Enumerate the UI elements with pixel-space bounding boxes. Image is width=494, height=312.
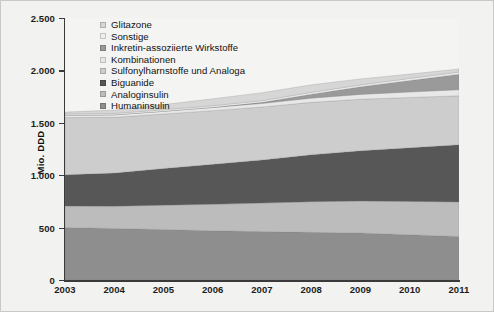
y-axis-tick-label: 2.500 bbox=[1, 13, 55, 24]
legend-item: Biguanide bbox=[100, 77, 245, 89]
y-axis-title: Mio. DDD bbox=[35, 98, 46, 208]
legend-item: Analoginsulin bbox=[100, 89, 245, 101]
legend-item-label: Humaninsulin bbox=[111, 100, 170, 112]
y-axis-line bbox=[64, 18, 65, 281]
x-axis-tick-label: 2003 bbox=[42, 284, 88, 295]
x-axis-tick-label: 2008 bbox=[288, 284, 334, 295]
y-axis-tick bbox=[59, 18, 65, 19]
legend-swatch-icon bbox=[100, 103, 106, 109]
legend-swatch-icon bbox=[100, 22, 106, 28]
x-axis-tick-label: 2010 bbox=[387, 284, 433, 295]
x-axis-tick-label: 2006 bbox=[190, 284, 236, 295]
y-axis-tick-label: 1.500 bbox=[1, 117, 55, 128]
legend-item: Glitazone bbox=[100, 19, 245, 31]
legend-item: Inkretin-assoziierte Wirkstoffe bbox=[100, 42, 245, 54]
x-axis-tick-label: 2009 bbox=[338, 284, 384, 295]
y-axis-tick-label: 1.000 bbox=[1, 170, 55, 181]
y-axis-labels: 05001.0001.5002.0002.500 bbox=[1, 1, 57, 312]
legend-swatch-icon bbox=[100, 80, 106, 86]
x-axis-line bbox=[64, 280, 460, 282]
y-axis-tick bbox=[59, 228, 65, 229]
y-axis-tick bbox=[59, 70, 65, 71]
legend-swatch-icon bbox=[100, 57, 106, 63]
legend-swatch-icon bbox=[100, 45, 106, 51]
legend-item-label: Glitazone bbox=[111, 19, 152, 31]
legend-swatch-icon bbox=[100, 68, 106, 74]
y-axis-tick bbox=[59, 175, 65, 176]
y-axis-tick bbox=[59, 123, 65, 124]
legend-item: Kombinationen bbox=[100, 54, 245, 66]
legend-swatch-icon bbox=[100, 91, 106, 97]
x-axis-tick-label: 2011 bbox=[436, 284, 482, 295]
legend-item-label: Biguanide bbox=[111, 77, 154, 89]
area-band bbox=[65, 228, 459, 280]
x-axis-labels: 200320042005200620072008200920102011 bbox=[1, 284, 494, 302]
chart-figure: 05001.0001.5002.0002.500 Mio. DDD 200320… bbox=[0, 0, 494, 312]
legend-swatch-icon bbox=[100, 33, 106, 39]
legend-item-label: Sulfonylharnstoffe und Analoga bbox=[111, 65, 245, 77]
legend-item-label: Kombinationen bbox=[111, 54, 176, 66]
y-axis-tick-label: 500 bbox=[1, 222, 55, 233]
legend-item-label: Sonstige bbox=[111, 31, 149, 43]
x-axis-tick-label: 2007 bbox=[239, 284, 285, 295]
x-axis-tick-label: 2005 bbox=[141, 284, 187, 295]
legend-item-label: Inkretin-assoziierte Wirkstoffe bbox=[111, 42, 238, 54]
legend-item: Humaninsulin bbox=[100, 100, 245, 112]
legend-item: Sonstige bbox=[100, 31, 245, 43]
legend-item-label: Analoginsulin bbox=[111, 89, 169, 101]
chart-legend: GlitazoneSonstigeInkretin-assoziierte Wi… bbox=[100, 19, 245, 112]
y-axis-tick-label: 2.000 bbox=[1, 65, 55, 76]
x-axis-tick-label: 2004 bbox=[91, 284, 137, 295]
legend-item: Sulfonylharnstoffe und Analoga bbox=[100, 65, 245, 77]
y-axis-tick bbox=[59, 280, 65, 281]
